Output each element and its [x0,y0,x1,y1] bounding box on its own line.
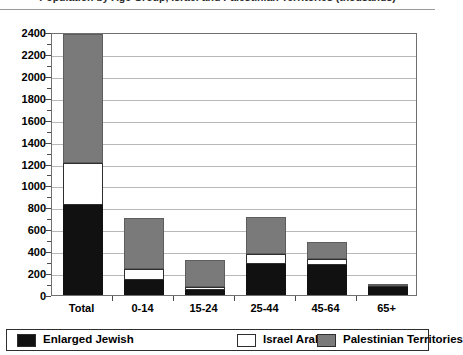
x-axis-tick [356,296,357,301]
gridline [52,166,416,167]
bar-segment [185,290,225,295]
gridline [52,122,416,123]
legend: Enlarged JewishIsrael ArabsPalestinian T… [6,329,429,351]
x-axis-tick [234,296,235,301]
y-axis-tick [45,252,51,253]
bar-Total [63,32,103,295]
x-axis-tick [112,296,113,301]
plot-area [51,33,417,296]
bar-0-14 [124,32,164,295]
bar-65+ [368,32,408,295]
gridline [52,275,416,276]
gridline [52,209,416,210]
y-axis-label: 2200 [0,49,46,60]
bar-15-24 [185,32,225,295]
legend-swatch [317,334,336,347]
y-axis-minor-tick [47,44,51,45]
x-axis-label: 25-44 [250,302,278,314]
bar-segment [63,34,103,163]
legend-item: Palestinian Territories [317,333,432,347]
y-axis-tick [45,230,51,231]
x-axis-label: 65+ [377,302,396,314]
y-axis-label: 200 [0,269,46,280]
y-axis-minor-tick [47,154,51,155]
x-axis-tick [173,296,174,301]
gridline [52,187,416,188]
y-axis-minor-tick [47,241,51,242]
bar-segment [124,280,164,295]
y-axis-tick [45,274,51,275]
y-axis-label: 1800 [0,93,46,104]
gridline [52,253,416,254]
y-axis-minor-tick [47,197,51,198]
x-axis-label: 45-64 [311,302,339,314]
legend-label: Palestinian Territories [343,334,463,346]
bar-segment [368,284,408,286]
x-axis-tick [295,296,296,301]
bar-segment [368,287,408,295]
y-axis-minor-tick [47,132,51,133]
gridline [52,78,416,79]
bar-segment [63,205,103,295]
chart-title-text: Population by Age Group, Israel and Pale… [0,0,435,3]
y-axis-minor-tick [47,285,51,286]
y-axis-tick [45,99,51,100]
y-axis-tick [45,165,51,166]
bar-segment [63,163,103,205]
y-axis-label: 600 [0,225,46,236]
y-axis-minor-tick [47,66,51,67]
x-axis-label: Total [69,302,94,314]
y-axis-label: 400 [0,247,46,258]
bar-45-64 [307,32,347,295]
y-axis-tick [45,121,51,122]
y-axis-minor-tick [47,88,51,89]
legend-swatch [237,334,256,347]
y-axis-tick [45,77,51,78]
y-axis-tick [45,55,51,56]
y-axis-label: 1000 [0,181,46,192]
x-axis-label: 0-14 [131,302,153,314]
bar-segment [307,265,347,295]
bar-segment [246,264,286,295]
bar-segment [307,259,347,265]
y-axis-tick [45,143,51,144]
y-axis-label: 2000 [0,71,46,82]
bar-segment [185,287,225,290]
y-axis-tick [45,208,51,209]
title-divider [0,9,435,10]
gridline [52,100,416,101]
y-axis-label: 0 [0,291,46,302]
legend-item: Israel Arabs [237,333,317,347]
y-axis-tick [45,33,51,34]
y-axis-label: 1400 [0,137,46,148]
legend-item: Enlarged Jewish [17,333,232,347]
y-axis-label: 1600 [0,115,46,126]
y-axis-minor-tick [47,263,51,264]
bar-segment [246,254,286,264]
y-axis-label: 1200 [0,159,46,170]
bar-segment [246,217,286,255]
chart-title-clipped: Population by Age Group, Israel and Pale… [0,0,435,9]
y-axis-label: 800 [0,203,46,214]
bar-25-44 [246,32,286,295]
legend-swatch [17,334,36,347]
legend-label: Enlarged Jewish [43,334,134,346]
gridline [52,231,416,232]
bar-segment [307,242,347,258]
y-axis-tick [45,296,51,297]
y-axis-minor-tick [47,219,51,220]
y-axis-label: 2400 [0,28,46,39]
y-axis-tick [45,186,51,187]
gridline [52,144,416,145]
gridline [52,56,416,57]
bar-segment [124,269,164,280]
y-axis-minor-tick [47,175,51,176]
bar-segment [124,218,164,269]
y-axis-minor-tick [47,110,51,111]
bar-segment [185,260,225,287]
x-axis-label: 15-24 [189,302,217,314]
